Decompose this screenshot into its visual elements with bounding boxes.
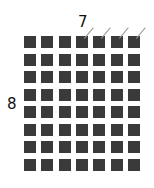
grid-square — [41, 71, 53, 83]
grid-square — [41, 54, 53, 66]
grid-square — [128, 54, 140, 66]
grid-square — [41, 89, 53, 101]
column-count-label: 7 — [78, 15, 88, 30]
grid-square — [111, 141, 123, 153]
grid-square — [93, 89, 105, 101]
grid-square — [24, 54, 36, 66]
grid-square — [59, 124, 71, 136]
grid-square — [93, 54, 105, 66]
grid-square — [24, 141, 36, 153]
grid-square — [76, 124, 88, 136]
grid-square — [111, 89, 123, 101]
grid-square — [59, 159, 71, 171]
grid-square — [93, 124, 105, 136]
diagonal-tick-mark — [136, 27, 146, 38]
grid-square — [59, 106, 71, 118]
grid-square — [93, 141, 105, 153]
grid-square — [76, 106, 88, 118]
grid-square — [93, 71, 105, 83]
grid-square — [111, 36, 123, 48]
grid-square — [59, 141, 71, 153]
grid-square — [41, 36, 53, 48]
grid-square — [24, 124, 36, 136]
grid-square — [59, 36, 71, 48]
row-count-label: 8 — [7, 97, 17, 112]
grid-square — [128, 71, 140, 83]
grid-square — [24, 106, 36, 118]
grid-square — [59, 54, 71, 66]
grid-square — [111, 159, 123, 171]
grid-square — [76, 71, 88, 83]
grid-square — [128, 141, 140, 153]
grid-square — [76, 89, 88, 101]
grid-square — [24, 36, 36, 48]
grid-square — [111, 54, 123, 66]
grid-square — [59, 71, 71, 83]
grid-square — [93, 36, 105, 48]
grid-square — [76, 159, 88, 171]
grid-square — [76, 54, 88, 66]
grid-square — [41, 141, 53, 153]
grid-square — [76, 36, 88, 48]
grid-square — [111, 71, 123, 83]
grid-square — [41, 159, 53, 171]
grid-square — [24, 71, 36, 83]
grid-square — [41, 124, 53, 136]
grid-square — [128, 124, 140, 136]
grid-square — [41, 106, 53, 118]
grid-square — [111, 106, 123, 118]
grid-square — [128, 89, 140, 101]
grid-square — [24, 159, 36, 171]
diagonal-tick-mark — [101, 27, 111, 38]
grid-square — [93, 159, 105, 171]
grid-square — [128, 36, 140, 48]
grid-square — [24, 89, 36, 101]
grid-square — [128, 106, 140, 118]
grid-square — [59, 89, 71, 101]
grid-square — [111, 124, 123, 136]
grid-square — [76, 141, 88, 153]
grid-square — [93, 106, 105, 118]
grid-square — [128, 159, 140, 171]
